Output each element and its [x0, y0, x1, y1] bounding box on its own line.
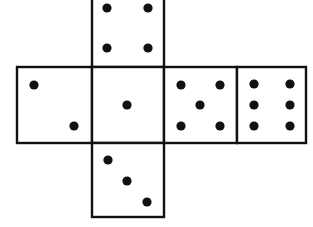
far-right-face	[237, 67, 306, 143]
top-face-pip-1	[102, 3, 111, 12]
bottom-face-pip-3	[142, 197, 151, 206]
far-right-face-pip-3	[249, 100, 258, 109]
bottom-face-pip-1	[103, 155, 112, 164]
right-face-pip-2	[215, 80, 224, 89]
far-right-face-pip-6	[285, 121, 294, 130]
faces-layer	[17, 0, 306, 217]
top-face-pip-2	[143, 3, 152, 12]
right-face-pip-3	[195, 100, 204, 109]
top-face-pip-4	[143, 43, 152, 52]
right-face-pip-1	[176, 80, 185, 89]
cube-net-canvas	[0, 0, 313, 227]
far-right-face-pip-4	[285, 100, 294, 109]
left-face-pip-1	[29, 80, 38, 89]
top-face-pip-3	[102, 43, 111, 52]
right-face-pip-5	[215, 121, 224, 130]
far-right-face-pip-1	[249, 79, 258, 88]
right-face-pip-4	[176, 121, 185, 130]
top-face	[92, 0, 164, 67]
cube-net-diagram	[0, 0, 313, 227]
left-face	[17, 67, 92, 143]
left-face-pip-2	[69, 121, 78, 130]
bottom-face-pip-2	[122, 176, 131, 185]
far-right-face-pip-2	[285, 79, 294, 88]
far-right-face-pip-5	[249, 121, 258, 130]
center-face-pip-1	[122, 100, 131, 109]
